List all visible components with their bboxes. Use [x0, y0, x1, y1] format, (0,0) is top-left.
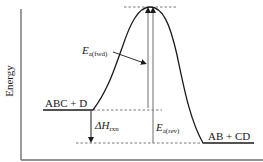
products-label: AB + CD: [208, 130, 250, 142]
ea-rev-label: Ea(rev): [155, 121, 180, 135]
energy-diagram: Energy Ea(fwd) Ea(rev) ΔHrxn ABC + D AB …: [0, 0, 263, 162]
delta-h-label: ΔHrxn: [94, 119, 119, 133]
reactants-label: ABC + D: [45, 97, 87, 109]
y-axis-label: Energy: [3, 65, 15, 97]
ea-fwd-label: Ea(fwd): [81, 44, 108, 58]
